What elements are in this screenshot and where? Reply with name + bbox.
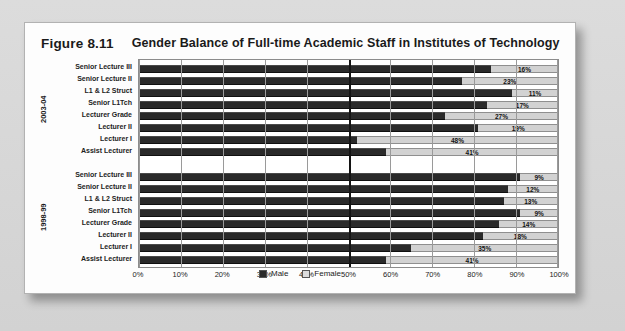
gridline [307,60,308,267]
bar-value-label: 19% [512,123,525,135]
bar-value-label: 9% [534,208,543,220]
category-axis-labels: Senior Lecture IIISenior Lecture IIL1 & … [55,59,135,268]
gridline [181,60,182,267]
category-label: Lecturer Grade [82,219,132,227]
category-label: Senior Lecture II [77,183,132,191]
category-label: L1 & L2 Struct [85,87,132,95]
bar-segment-male [139,112,445,120]
legend-item-female: Female [302,269,341,278]
bar-value-label: 14% [522,219,535,231]
category-label: L1 & L2 Struct [85,195,132,203]
figure-number: Figure 8.11 [41,36,114,51]
figure-card: Figure 8.11 Gender Balance of Full-time … [24,22,576,294]
category-label: Assist Lecturer [81,147,132,155]
bar-segment-male [139,220,499,228]
group-year-label: 2003-04 [39,64,48,155]
category-label: Senior L1Tch [88,207,132,215]
legend-swatch-female-icon [302,270,310,278]
chart-legend: Male Female [25,269,575,278]
category-label: Senior Lecture III [75,63,132,71]
gridline [474,60,475,267]
category-label: Lecturer I [100,135,132,143]
chart-area: Senior Lecture IIISenior Lecture IIL1 & … [37,59,565,287]
group-year-label: 1998-99 [39,172,48,263]
bar-value-label: 16% [518,64,531,76]
bar-value-label: 23% [503,76,516,88]
bar-segment-male [139,232,483,240]
bar-segment-male [139,124,478,132]
gridline [432,60,433,267]
legend-swatch-male-icon [259,270,267,278]
legend-item-male: Male [259,269,288,278]
gridline [390,60,391,267]
bar-segment-male [139,173,520,181]
bar-value-label: 9% [534,172,543,184]
category-label: Senior L1Tch [88,99,132,107]
bar-value-label: 27% [495,111,508,123]
category-label: Assist Lecturer [81,255,132,263]
bar-value-label: 48% [451,135,464,147]
category-label: Senior Lecture III [75,171,132,179]
bar-value-label: 35% [478,243,491,255]
bar-value-label: 12% [526,184,539,196]
bar-value-label: 41% [466,147,479,159]
category-label: Senior Lecture II [77,75,132,83]
page-title: Gender Balance of Full-time Academic Sta… [132,36,560,50]
bar-value-label: 41% [466,255,479,267]
legend-label-male: Male [271,269,288,278]
bar-segment-male [139,136,357,144]
figure-title-row: Figure 8.11 Gender Balance of Full-time … [25,30,575,56]
legend-label-female: Female [314,269,341,278]
bar-value-label: 17% [516,100,529,112]
gridline [516,60,517,267]
bar-segment-male [139,65,491,73]
gridline [139,60,140,267]
gridline [265,60,266,267]
category-label: Lecturer Grade [82,111,132,119]
category-label: Lecturer I [100,243,132,251]
plot-frame: 16%23%11%17%27%19%48%41%9%12%13%9%14%18%… [138,59,559,268]
category-label: Lecturer II [98,231,132,239]
bar-segment-male [139,209,520,217]
bar-segment-male [139,77,462,85]
bar-segment-male [139,185,508,193]
bar-value-label: 13% [524,196,537,208]
gridline-midpoint [349,60,351,267]
bar-segment-male [139,197,504,205]
gridline [223,60,224,267]
bar-segment-male [139,244,411,252]
gridline [557,60,558,267]
bar-segment-male [139,101,487,109]
bar-value-label: 11% [529,88,542,100]
category-label: Lecturer II [98,123,132,131]
bar-segment-male [139,89,512,97]
